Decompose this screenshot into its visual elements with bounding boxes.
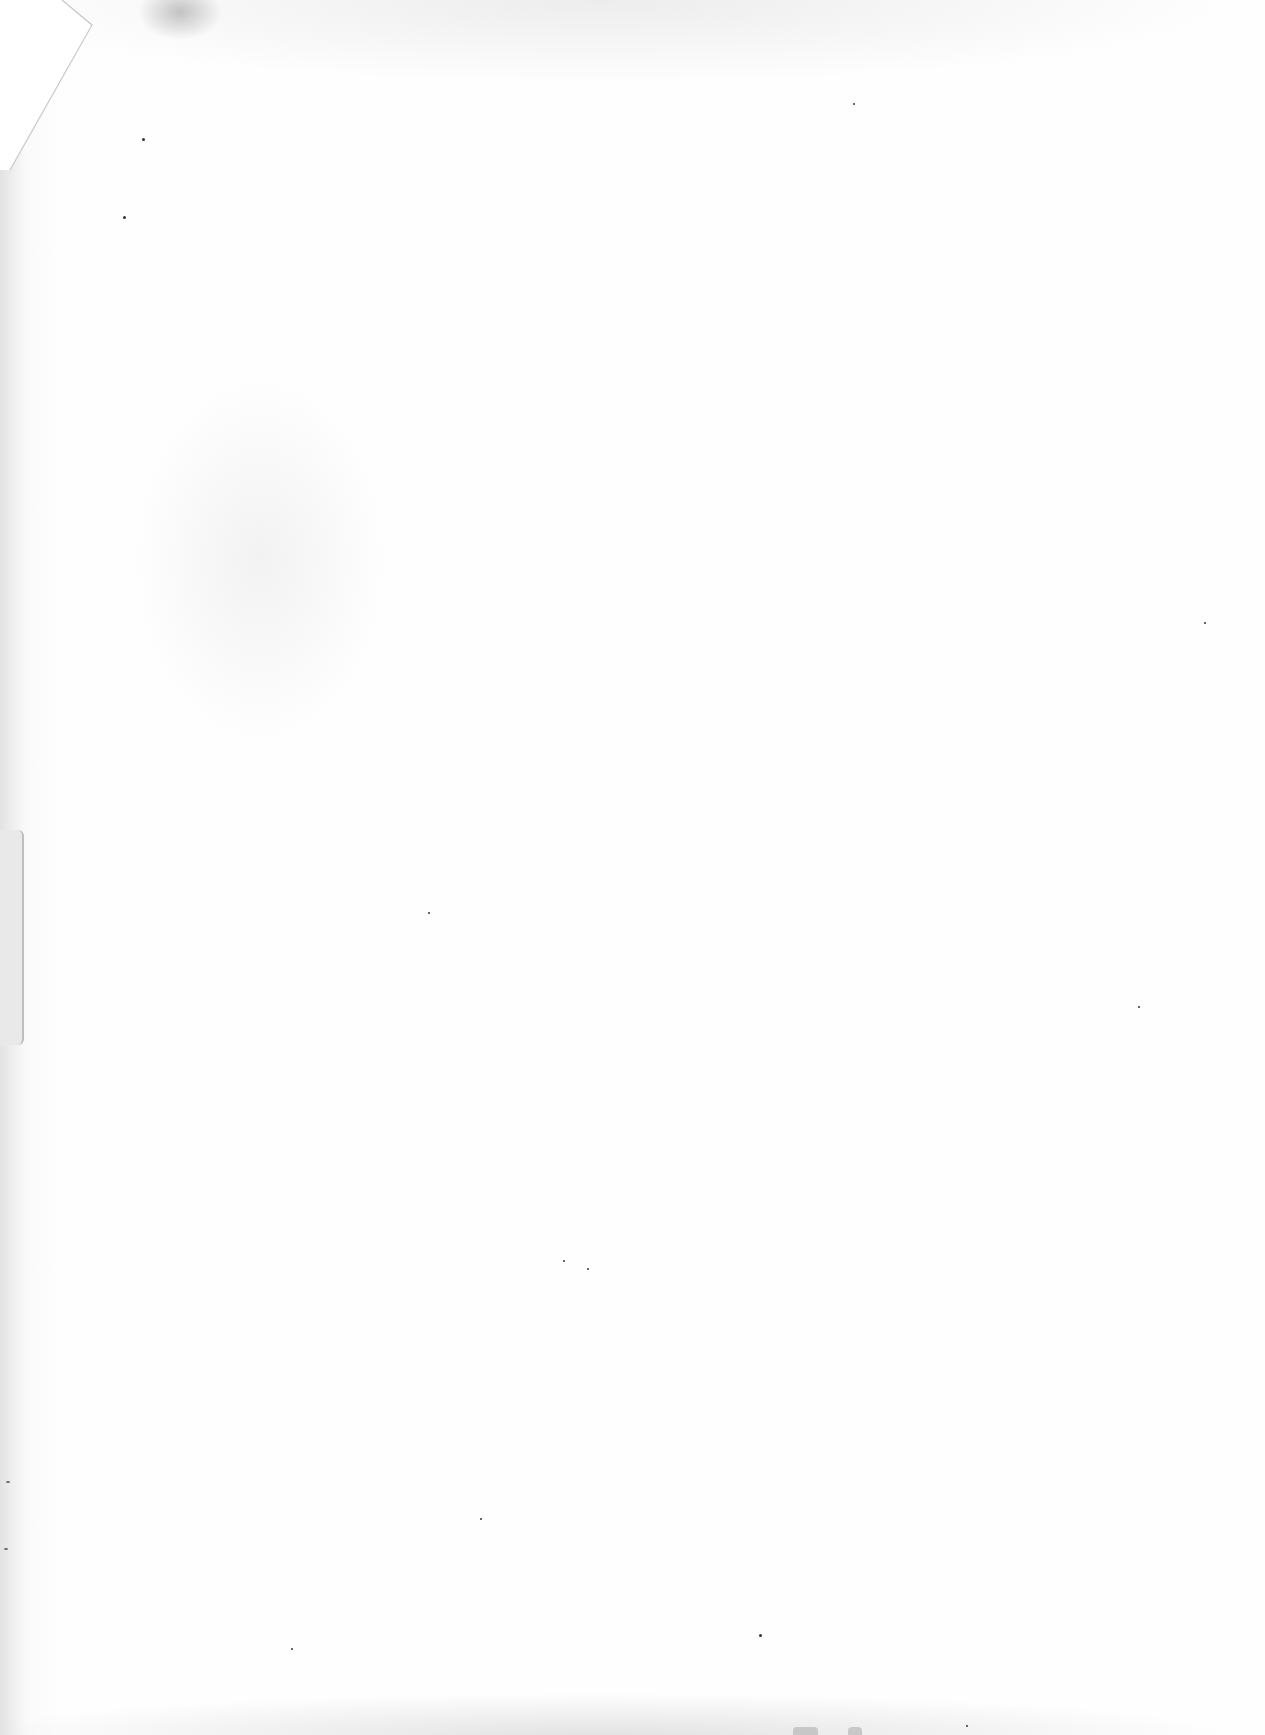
speck <box>428 912 430 914</box>
speck <box>142 138 145 141</box>
speck <box>480 1518 482 1520</box>
speck <box>563 1260 565 1262</box>
speck <box>759 1634 762 1637</box>
speck <box>6 1481 10 1483</box>
speck <box>291 1648 293 1650</box>
speck <box>966 1725 968 1727</box>
bottom-smudge <box>848 1727 862 1735</box>
speck <box>123 216 126 219</box>
speck <box>587 1268 589 1270</box>
blank-scanned-page <box>0 0 1265 1735</box>
folded-corner <box>0 0 95 170</box>
speck <box>4 1548 8 1550</box>
speck <box>1204 622 1206 624</box>
speck <box>853 103 855 105</box>
speck <box>1138 1006 1140 1008</box>
left-edge-tab <box>0 830 24 1045</box>
bottom-smudge <box>793 1727 818 1735</box>
